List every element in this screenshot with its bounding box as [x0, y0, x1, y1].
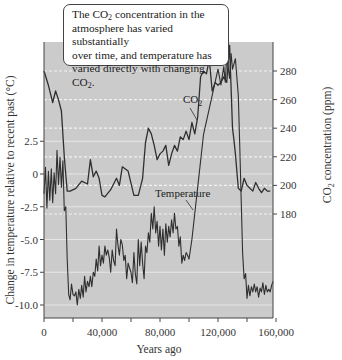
svg-text:120,000: 120,000 — [200, 326, 236, 338]
callout-line-2: atmosphere has varied substantially — [72, 22, 222, 49]
svg-text:0: 0 — [41, 326, 47, 338]
right-y-ticks: 280260240220200180 — [273, 65, 297, 220]
callout-line-1: The CO2 concentration in the — [72, 8, 222, 22]
svg-text:200: 200 — [280, 179, 297, 191]
svg-text:180: 180 — [280, 208, 297, 220]
callout-box: The CO2 concentration in the atmosphere … — [63, 4, 229, 66]
svg-text:40,000: 40,000 — [87, 326, 118, 338]
x-axis-title: Years ago — [136, 343, 181, 356]
svg-text:260: 260 — [280, 94, 297, 106]
x-ticks: 040,00080,000120,000160,000 — [41, 318, 294, 338]
svg-text:160,000: 160,000 — [258, 326, 294, 338]
left-y-ticks: 2.50-2.5-5.0-7.5-10.0 — [15, 135, 44, 311]
svg-text:280: 280 — [280, 65, 297, 77]
svg-text:-10.0: -10.0 — [15, 299, 38, 311]
svg-text:-5.0: -5.0 — [21, 234, 39, 246]
callout-line-4: varied directly with changing CO2. — [72, 62, 222, 89]
svg-text:Temperature: Temperature — [155, 187, 211, 199]
svg-text:-2.5: -2.5 — [21, 201, 39, 213]
right-y-axis-title: CO2 concentration (ppm) — [321, 87, 336, 204]
svg-text:2.5: 2.5 — [24, 135, 38, 147]
left-y-axis-title: Change in temperature relative to recent… — [4, 75, 17, 304]
svg-text:220: 220 — [280, 151, 297, 163]
svg-text:-7.5: -7.5 — [21, 266, 39, 278]
svg-text:0: 0 — [33, 168, 39, 180]
svg-text:80,000: 80,000 — [145, 326, 176, 338]
svg-text:240: 240 — [280, 122, 297, 134]
callout-line-3: over time, and temperature has — [72, 49, 222, 63]
